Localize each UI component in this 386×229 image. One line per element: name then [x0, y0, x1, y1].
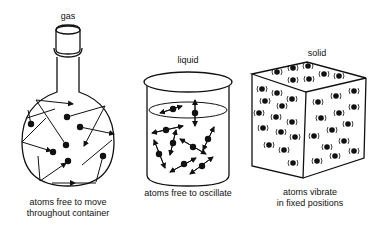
gas-caption-line2: throughout container [27, 208, 110, 218]
gas-caption-line1: atoms free to move [29, 197, 106, 207]
gas-panel: gas [22, 11, 114, 218]
solid-panel: solid [252, 48, 366, 208]
gas-atoms [28, 114, 106, 164]
liquid-atom-dots [156, 106, 211, 169]
gas-title: gas [61, 11, 76, 21]
states-of-matter-diagram: gas [0, 0, 386, 229]
gas-trajectories [22, 100, 114, 183]
beaker-icon [144, 72, 232, 186]
solid-title: solid [308, 48, 327, 58]
liquid-caption: atoms free to oscillate [144, 188, 232, 198]
liquid-panel: liquid [144, 55, 232, 198]
solid-caption-line1: atoms vibrate [283, 187, 337, 197]
liquid-title: liquid [177, 55, 198, 65]
solid-caption-line2: in fixed positions [277, 198, 344, 208]
